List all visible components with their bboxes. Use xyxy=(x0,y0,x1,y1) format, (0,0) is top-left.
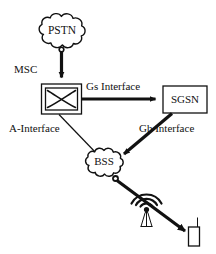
network-architecture-diagram: PSTN MSC Gs Interface SG xyxy=(0,0,216,254)
msc-label: MSC xyxy=(14,63,37,75)
pstn-cloud: PSTN xyxy=(39,14,85,48)
bss-cloud: BSS xyxy=(86,148,124,176)
diagram-canvas: PSTN MSC Gs Interface SG xyxy=(0,0,216,254)
sgsn-label: SGSN xyxy=(171,93,199,105)
edge-msc-to-bss xyxy=(59,115,98,156)
pstn-label: PSTN xyxy=(48,24,77,36)
gs-interface-label: Gs Interface xyxy=(86,80,140,92)
mobile-station xyxy=(189,218,200,247)
gb-interface-label: Gb Interface xyxy=(139,122,194,134)
radio-wave-arc-inner xyxy=(141,203,153,206)
bss-label: BSS xyxy=(94,155,114,167)
sgsn-node: SGSN xyxy=(163,86,207,113)
a-interface-label: A-Interface xyxy=(9,122,60,134)
msc-node xyxy=(42,84,82,114)
edge-sgsn-to-bss xyxy=(124,114,172,155)
